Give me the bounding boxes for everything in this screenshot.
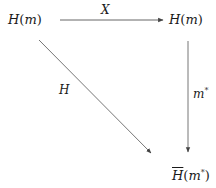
arrow-right-label-base: m [193, 87, 204, 101]
arrow-right-label-sup: * [204, 86, 208, 95]
arrows-layer [0, 0, 216, 188]
node-top-right-base: H [169, 12, 180, 27]
node-bottom-right-arg: m [188, 168, 200, 183]
arrow-diagonal-label: H [59, 84, 69, 96]
arrow-diagonal-h [39, 40, 151, 153]
node-top-left-base: H [8, 12, 19, 27]
node-top-right-arg: m [185, 12, 197, 27]
commutative-diagram: H(m) H(m) H(m*) X m* H [0, 0, 216, 188]
arrow-right-label: m* [193, 87, 208, 100]
node-top-left: H(m) [8, 13, 42, 26]
node-bottom-right-base: H [172, 168, 183, 183]
node-top-right: H(m) [169, 13, 203, 26]
arrow-top-label: X [101, 4, 110, 16]
node-top-left-arg: m [24, 12, 36, 27]
node-bottom-right: H(m*) [172, 169, 210, 182]
